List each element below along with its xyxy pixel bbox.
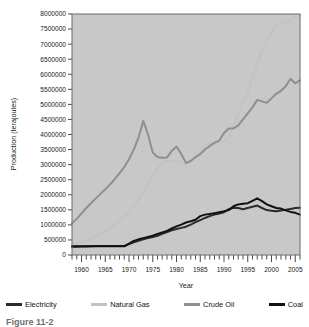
y-tick-label: 8000000 [40, 10, 66, 17]
y-tick-label: 5000000 [40, 101, 66, 108]
legend-swatch-coal [269, 303, 285, 306]
x-tick-label: 1970 [122, 266, 137, 273]
x-tick-label: 2000 [264, 266, 279, 273]
y-tick-label: 1000000 [40, 221, 66, 228]
x-tick-marks [72, 255, 300, 262]
y-tick-label: 500000 [44, 236, 66, 243]
y-tick-label: 7000000 [40, 41, 66, 48]
y-tick-marks [68, 14, 72, 255]
y-tick-label: 6000000 [40, 71, 66, 78]
y-tick-label: 4000000 [40, 131, 66, 138]
legend-label-electricity: Electricity [25, 300, 57, 309]
figure-caption: Figure 11-2 [6, 317, 54, 327]
x-tick-label: 1980 [169, 266, 184, 273]
figure-container: 0500000100000015000002000000250000030000… [0, 0, 309, 327]
y-tick-label: 5500000 [40, 86, 66, 93]
y-tick-label: 6500000 [40, 56, 66, 63]
x-tick-label: 1995 [240, 266, 255, 273]
x-tick-label: 1985 [193, 266, 208, 273]
chart-area: 0500000100000015000002000000250000030000… [0, 0, 309, 295]
y-tick-label: 2500000 [40, 176, 66, 183]
y-tick-label: 3500000 [40, 146, 66, 153]
legend-swatch-natural-gas [91, 303, 107, 306]
legend-item-electricity: Electricity [6, 300, 57, 309]
y-tick-label: 4500000 [40, 116, 66, 123]
x-tick-label: 1965 [98, 266, 113, 273]
legend-swatch-crude-oil [184, 303, 200, 306]
x-tick-label: 2005 [288, 266, 303, 273]
legend-label-crude-oil: Crude Oil [203, 300, 234, 309]
x-tick-labels: 1960196519701975198019851990199520002005 [74, 266, 303, 273]
y-tick-label: 7500000 [40, 25, 66, 32]
y-tick-labels: 0500000100000015000002000000250000030000… [40, 10, 66, 258]
legend-item-crude-oil: Crude Oil [184, 300, 234, 309]
x-tick-label: 1990 [217, 266, 232, 273]
legend-item-coal: Coal [269, 300, 303, 309]
legend-label-coal: Coal [288, 300, 303, 309]
production-line-chart: 0500000100000015000002000000250000030000… [0, 0, 309, 295]
legend-label-natural-gas: Natural Gas [110, 300, 149, 309]
chart-legend: Electricity Natural Gas Crude Oil Coal [0, 296, 309, 312]
legend-swatch-electricity [6, 303, 22, 306]
legend-item-natural-gas: Natural Gas [91, 300, 149, 309]
y-tick-label: 1500000 [40, 206, 66, 213]
plot-background-layer [72, 14, 300, 255]
y-tick-label: 3000000 [40, 161, 66, 168]
y-tick-label: 2000000 [40, 191, 66, 198]
x-tick-label: 1960 [74, 266, 89, 273]
x-tick-label: 1975 [145, 266, 160, 273]
plot-background [72, 14, 300, 255]
y-axis-title: Production (terajoules) [9, 98, 18, 170]
y-tick-label: 0 [62, 251, 66, 258]
x-axis-title: Year [179, 281, 194, 290]
